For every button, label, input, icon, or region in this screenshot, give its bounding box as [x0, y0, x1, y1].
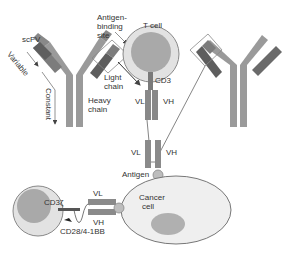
- label-cd3-bottom: CD3ζ: [44, 198, 64, 207]
- label-vh-top: VH: [163, 97, 174, 106]
- label-vh-mid: VH: [166, 148, 177, 157]
- label-scfv: scFV: [22, 35, 40, 44]
- label-vl-top: VL: [135, 97, 145, 106]
- label-cancer-2: cell: [142, 202, 154, 211]
- label-constant: Constant: [44, 88, 53, 120]
- label-antigen-binding-1: Antigen-: [97, 13, 127, 22]
- antibody-right: [190, 34, 282, 127]
- label-antigen-binding-2: binding: [97, 22, 123, 31]
- label-vh-bottom: VH: [93, 218, 104, 227]
- diagram-canvas: [0, 0, 299, 253]
- label-antigen-binding-3: site: [97, 31, 109, 40]
- label-t-cell: T cell: [143, 21, 162, 30]
- label-cd3-top: CD3: [155, 76, 171, 85]
- cancer-nucleus: [151, 213, 185, 235]
- label-heavy-1: Heavy: [88, 96, 111, 105]
- cancer-cell: [121, 176, 231, 244]
- label-antigen: Antigen: [122, 170, 149, 179]
- label-heavy-2: chain: [88, 105, 107, 114]
- label-vl-mid: VL: [131, 148, 141, 157]
- label-costim: CD28/4-1BB: [60, 227, 105, 236]
- label-cancer-1: Cancer: [139, 193, 165, 202]
- label-light-1: Light: [104, 73, 121, 82]
- label-light-2: chain: [104, 82, 123, 91]
- label-vl-bottom: VL: [93, 189, 103, 198]
